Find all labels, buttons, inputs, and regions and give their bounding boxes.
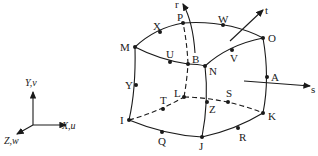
node-S — [226, 100, 230, 104]
edge-M-B — [135, 47, 188, 64]
label-Q: Q — [158, 135, 166, 147]
node-K — [261, 111, 265, 115]
node-U — [168, 60, 172, 64]
label-I: I — [120, 114, 124, 126]
z-axis-arrow — [17, 125, 33, 134]
label-P: P — [177, 11, 183, 23]
label-A: A — [271, 71, 279, 83]
t-axis-arrow — [230, 10, 263, 41]
node-R — [236, 126, 240, 130]
edge-J-K — [202, 113, 263, 137]
label-B: B — [192, 53, 199, 65]
label-V: V — [230, 52, 238, 64]
element-diagram: Y,v X,u Z,w r t s — [0, 0, 318, 156]
edge-L-K — [184, 97, 263, 113]
label-N: N — [209, 65, 217, 77]
label-J: J — [199, 140, 204, 152]
node-N — [203, 64, 207, 68]
s-axis-label: s — [311, 83, 315, 95]
x-axis-label: X,u — [61, 120, 76, 131]
r-axis-arrow — [183, 4, 195, 53]
label-L: L — [174, 87, 181, 99]
edge-B-P — [183, 23, 188, 64]
global-axes: Y,v X,u Z,w — [4, 77, 76, 146]
label-S: S — [226, 87, 232, 99]
node-T — [161, 107, 165, 111]
edge-I-L — [129, 97, 184, 120]
label-M: M — [120, 41, 130, 53]
node-B — [186, 62, 190, 66]
hidden-edges — [129, 23, 263, 120]
visible-edges — [129, 23, 267, 137]
label-X: X — [153, 20, 161, 32]
label-Y: Y — [125, 79, 133, 91]
edge-L-B — [184, 64, 188, 97]
label-Z: Z — [209, 103, 216, 115]
label-R: R — [239, 131, 247, 143]
node-Y — [134, 83, 138, 87]
label-O: O — [268, 32, 276, 44]
t-axis-label: t — [265, 4, 268, 16]
label-K: K — [268, 110, 276, 122]
label-W: W — [218, 13, 229, 25]
node-O — [261, 36, 265, 40]
node-J — [200, 135, 204, 139]
label-U: U — [166, 48, 174, 60]
node-Q — [160, 130, 164, 134]
node-A — [265, 75, 269, 79]
node-M — [133, 45, 137, 49]
r-axis-label: r — [175, 0, 179, 10]
y-axis-label: Y,v — [25, 77, 37, 88]
label-T: T — [160, 94, 167, 106]
z-axis-label: Z,w — [4, 135, 19, 146]
node-L — [182, 95, 186, 99]
node-I — [127, 118, 131, 122]
local-axes: r t s — [175, 0, 315, 95]
